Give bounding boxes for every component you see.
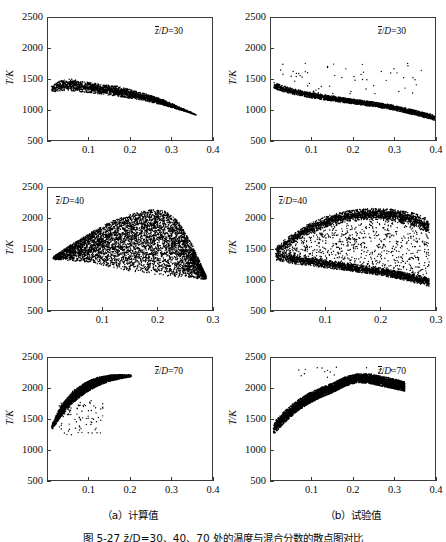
y-axis-label: T/K	[227, 396, 238, 440]
xtick-mark	[353, 477, 354, 481]
ytick-mark	[270, 357, 274, 358]
xtick-mark	[311, 477, 312, 481]
z-bar-symbol: z	[378, 367, 382, 377]
xtick-label: 0.2	[339, 485, 367, 496]
ytick-mark	[270, 450, 274, 451]
subcaption-b: （b）试验值	[270, 510, 436, 521]
xtick-mark	[436, 477, 437, 481]
subcaption-a: （a）计算值	[47, 510, 213, 521]
ytick-mark	[270, 481, 274, 482]
figure-container: 50010001500200025000.10.20.30.4T/Kz/D=30…	[0, 0, 446, 542]
ytick-label: 2000	[228, 383, 266, 394]
panel-exp-70: 50010001500200025000.10.20.30.4T/Kz/D=70	[0, 0, 446, 542]
scatter-points-exp-70	[271, 358, 435, 480]
ytick-label: 1000	[228, 445, 266, 456]
plot-area-exp-70	[270, 357, 436, 481]
panel-annotation-exp-70: z/D=70	[378, 367, 406, 377]
xtick-label: 0.3	[381, 485, 409, 496]
ytick-mark	[270, 388, 274, 389]
xtick-mark	[394, 477, 395, 481]
ytick-mark	[270, 419, 274, 420]
xtick-label: 0.4	[422, 485, 446, 496]
figure-caption: 图 5-27 z̄/D=30、40、70 处的温度与混合分数的散点图对比	[33, 532, 413, 542]
xtick-label: 0.1	[298, 485, 326, 496]
ytick-label: 500	[228, 476, 266, 487]
ytick-label: 2500	[228, 352, 266, 363]
annotation-value: /D=70	[382, 366, 406, 376]
